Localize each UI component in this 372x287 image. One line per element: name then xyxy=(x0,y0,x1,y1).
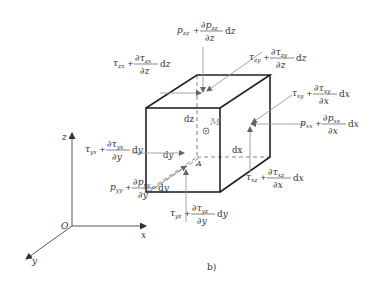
y-axis-label: y xyxy=(31,256,38,266)
label-tau-zx: τzx + ∂τzx ∂z dz xyxy=(113,53,171,76)
svg-text:∂pyy: ∂pyy xyxy=(133,177,151,189)
label-tau-zy: τzy + ∂τzy ∂z dz xyxy=(249,47,307,70)
svg-text:+: + xyxy=(315,119,322,128)
label-tau-yx: τyx + ∂τyx ∂y dy xyxy=(85,139,144,162)
svg-text:+: + xyxy=(99,145,106,154)
figure-caption: b) xyxy=(207,262,216,272)
svg-text:∂pxx: ∂pxx xyxy=(323,113,341,124)
svg-text:∂τxz: ∂τxz xyxy=(268,167,285,178)
cube-front-face xyxy=(146,108,220,192)
svg-text:pzz: pzz xyxy=(177,25,190,36)
label-p-zz: pzz + ∂pzz ∂z dz xyxy=(177,20,236,43)
point-a-label: A xyxy=(195,159,202,168)
svg-text:∂τzx: ∂τzx xyxy=(135,53,152,64)
svg-text:∂z: ∂z xyxy=(205,33,215,43)
svg-text:+: + xyxy=(125,183,132,192)
svg-text:τxz: τxz xyxy=(246,172,258,183)
dz-label: dz xyxy=(184,114,194,124)
svg-text:∂τyx: ∂τyx xyxy=(107,139,124,151)
svg-text:∂y: ∂y xyxy=(112,152,123,162)
svg-text:pyy: pyy xyxy=(110,182,123,194)
svg-text:∂y: ∂y xyxy=(138,190,149,200)
svg-text:dx: dx xyxy=(339,89,350,99)
svg-text:τzx: τzx xyxy=(113,58,125,69)
point-m: M xyxy=(203,116,221,134)
svg-text:dx: dx xyxy=(293,173,304,183)
stress-arrows xyxy=(132,47,305,222)
svg-text:dz: dz xyxy=(225,26,236,36)
label-p-xx: pxx + ∂pxx ∂x dx xyxy=(300,113,359,136)
svg-text:∂τzy: ∂τzy xyxy=(271,47,288,59)
svg-text:dy: dy xyxy=(158,183,170,193)
svg-text:dz: dz xyxy=(160,59,171,69)
svg-text:+: + xyxy=(127,59,134,68)
label-p-yy: pyy + ∂pyy ∂y dy xyxy=(110,177,170,200)
origin-label: O xyxy=(61,221,69,231)
label-tau-xz: τxz + ∂τxz ∂x dx xyxy=(246,167,304,190)
svg-text:+: + xyxy=(306,89,313,98)
z-axis-label: z xyxy=(61,132,67,142)
point-m-label: M xyxy=(209,116,221,127)
svg-text:∂τyz: ∂τyz xyxy=(192,203,209,215)
svg-text:+: + xyxy=(184,209,191,218)
label-tau-yz: τyz + ∂τyz ∂y dy xyxy=(170,203,229,226)
cube-top-face xyxy=(146,75,270,108)
x-axis-label: x xyxy=(141,230,146,240)
svg-text:τyx: τyx xyxy=(85,144,97,156)
svg-text:pxx: pxx xyxy=(300,118,313,129)
svg-text:∂pzz: ∂pzz xyxy=(201,20,219,31)
svg-text:dy: dy xyxy=(217,209,229,219)
dy-label: dy xyxy=(163,150,173,160)
svg-text:+: + xyxy=(193,26,200,35)
label-tau-xy: τxy + ∂τxy ∂x dx xyxy=(292,83,350,106)
svg-text:+: + xyxy=(260,173,267,182)
stress-element-diagram: z x y O M A dz dx dy xyxy=(0,0,372,287)
svg-text:dz: dz xyxy=(296,53,307,63)
svg-text:∂x: ∂x xyxy=(319,96,329,106)
svg-text:τyz: τyz xyxy=(170,208,182,220)
svg-text:∂y: ∂y xyxy=(197,216,208,226)
dx-label: dx xyxy=(232,145,242,155)
svg-text:∂x: ∂x xyxy=(273,180,283,190)
svg-text:∂x: ∂x xyxy=(328,126,338,136)
svg-text:∂z: ∂z xyxy=(276,60,286,70)
svg-text:+: + xyxy=(263,53,270,62)
svg-text:∂τxy: ∂τxy xyxy=(314,83,331,95)
svg-text:τxy: τxy xyxy=(292,88,304,100)
svg-text:∂z: ∂z xyxy=(140,66,150,76)
svg-text:dy: dy xyxy=(132,145,144,155)
svg-text:dx: dx xyxy=(348,119,359,129)
